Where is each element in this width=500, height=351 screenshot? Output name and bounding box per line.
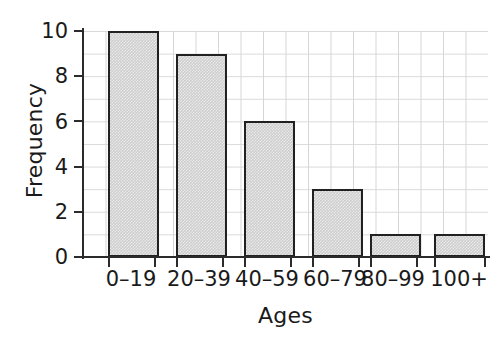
x-tick-label-5: 100+ [414, 268, 500, 291]
x-axis-line [82, 256, 490, 258]
y-axis-line [82, 28, 84, 259]
y-tick-mark-0 [74, 256, 83, 258]
y-tick-label-8: 8 [28, 66, 68, 87]
x-tick-mark-4 [244, 258, 246, 267]
y-tick-label-6: 6 [28, 112, 68, 133]
x-tick-mark-9 [416, 258, 418, 267]
x-tick-mark-11 [484, 258, 486, 267]
y-tick-label-2: 2 [28, 202, 68, 223]
x-tick-mark-0 [108, 258, 110, 267]
y-tick-label-4: 4 [28, 157, 68, 178]
y-tick-mark-4 [74, 166, 83, 168]
bar-5 [434, 234, 485, 257]
x-tick-mark-8 [370, 258, 372, 267]
x-tick-mark-2 [176, 258, 178, 267]
x-tick-mark-6 [312, 258, 314, 267]
x-tick-mark-1 [154, 258, 156, 267]
y-tick-label-10: 10 [28, 21, 68, 42]
bar-0 [108, 31, 159, 257]
plot-area [83, 31, 488, 257]
x-tick-mark-3 [222, 258, 224, 267]
bar-4 [370, 234, 421, 257]
x-tick-mark-5 [290, 258, 292, 267]
y-tick-label-0: 0 [28, 247, 68, 268]
y-tick-mark-8 [74, 75, 83, 77]
y-tick-mark-10 [74, 30, 83, 32]
y-tick-mark-6 [74, 120, 83, 122]
frequency-histogram: Frequency Ages 0 2 4 6 8 10 0–19 20–39 4… [0, 0, 500, 351]
x-tick-mark-10 [434, 258, 436, 267]
x-tick-mark-7 [358, 258, 360, 267]
bar-1 [176, 54, 227, 257]
x-axis-title: Ages [83, 303, 488, 328]
bar-3 [312, 189, 363, 257]
y-tick-mark-2 [74, 211, 83, 213]
bar-2 [244, 121, 295, 257]
